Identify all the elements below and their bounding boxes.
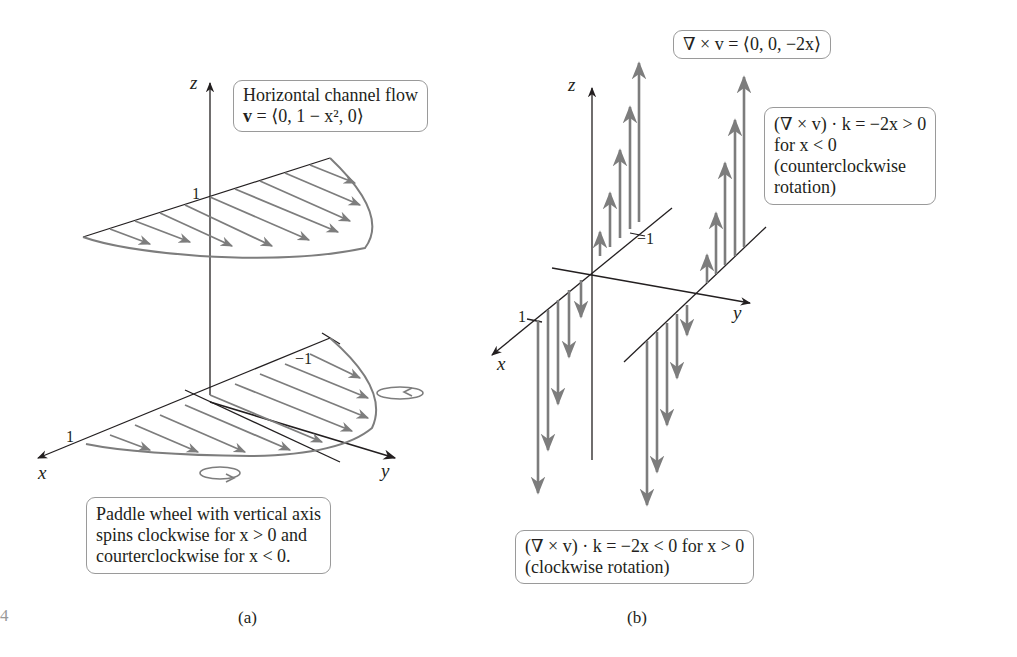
page-margin-mark: 4: [0, 606, 9, 626]
rotation-clockwise-icon: [200, 467, 240, 482]
x-tick-one-a: 1: [66, 428, 74, 446]
counterclockwise-box: (∇ × v) · k = −2x > 0 for x < 0 (counter…: [764, 107, 936, 205]
cw-box-line2: (clockwise rotation): [525, 557, 744, 578]
velocity-symbol: v: [243, 106, 252, 126]
flow-box-line2: v = ⟨0, 1 − x², 0⟩: [243, 106, 418, 127]
ccw-box-line2: for x < 0: [774, 135, 926, 156]
x-axis-label-b: x: [497, 353, 505, 375]
curl-formula: ∇ × v = ⟨0, 0, −2x⟩: [683, 34, 821, 54]
upper-channel-flow: [83, 158, 372, 258]
flow-formula: = ⟨0, 1 − x², 0⟩: [252, 106, 364, 126]
panel-a-diagram: [38, 83, 423, 482]
cw-box-line1: (∇ × v) · k = −2x < 0 for x > 0: [525, 536, 744, 557]
panel-b-diagram: [492, 63, 766, 505]
paddle-box-line2: spins clockwise for x > 0 and: [96, 525, 321, 546]
caption-b: (b): [627, 608, 647, 628]
ccw-box-line4: rotation): [774, 177, 926, 198]
z-axis-label-b: z: [568, 74, 575, 96]
x-tick-one-b: 1: [518, 308, 526, 326]
x-axis-label-a: x: [38, 462, 46, 484]
flow-box-line1: Horizontal channel flow: [243, 85, 418, 106]
clockwise-box: (∇ × v) · k = −2x < 0 for x > 0 (clockwi…: [515, 530, 754, 584]
caption-a: (a): [238, 608, 257, 628]
y-tick-neg-one-b: −1: [637, 230, 654, 248]
ccw-box-line3: (counterclockwise: [774, 156, 926, 177]
paddle-wheel-box: Paddle wheel with vertical axis spins cl…: [86, 497, 331, 574]
rotation-counterclockwise-icon: [377, 387, 423, 399]
lower-channel-flow: [38, 333, 395, 462]
z-tick-one-a: 1: [192, 185, 200, 203]
paddle-box-line3: courterclockwise for x < 0.: [96, 546, 321, 567]
y-tick-neg-one-a: −1: [295, 350, 312, 368]
z-axis-label-a: z: [190, 72, 197, 94]
y-axis-label-b: y: [733, 302, 741, 324]
curl-formula-box: ∇ × v = ⟨0, 0, −2x⟩: [673, 30, 831, 59]
x-axis-a: [38, 338, 330, 458]
ccw-box-line1: (∇ × v) · k = −2x > 0: [774, 114, 926, 135]
flow-description-box: Horizontal channel flow v = ⟨0, 1 − x², …: [233, 80, 428, 132]
paddle-box-line1: Paddle wheel with vertical axis: [96, 504, 321, 525]
y-axis-label-a: y: [381, 460, 389, 482]
